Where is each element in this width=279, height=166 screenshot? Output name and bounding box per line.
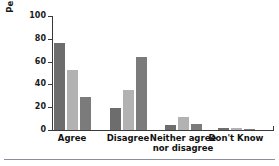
bar bbox=[191, 124, 202, 130]
bar bbox=[67, 70, 78, 130]
bottom-divider-rule bbox=[4, 159, 275, 160]
bar bbox=[218, 128, 229, 130]
y-tick-label: 40 bbox=[6, 80, 46, 88]
plot-area bbox=[52, 16, 274, 130]
bar bbox=[231, 128, 242, 130]
y-tick-mark bbox=[48, 130, 52, 131]
bar bbox=[80, 97, 91, 130]
x-category-label: Don't Know bbox=[196, 133, 276, 143]
bar bbox=[136, 57, 147, 130]
bar bbox=[110, 108, 121, 130]
y-tick-label: 60 bbox=[6, 58, 46, 66]
y-tick-label: 80 bbox=[6, 35, 46, 43]
x-axis-spine bbox=[52, 130, 274, 131]
bar bbox=[244, 129, 255, 130]
y-tick-label: 20 bbox=[6, 103, 46, 111]
bar bbox=[54, 43, 65, 130]
bar bbox=[165, 125, 176, 130]
bar bbox=[178, 117, 189, 130]
y-tick-label: 100 bbox=[6, 12, 46, 20]
bar bbox=[123, 90, 134, 130]
bar-chart-figure: Percentage 020406080100 AgreeDisagreeNei… bbox=[0, 0, 279, 166]
